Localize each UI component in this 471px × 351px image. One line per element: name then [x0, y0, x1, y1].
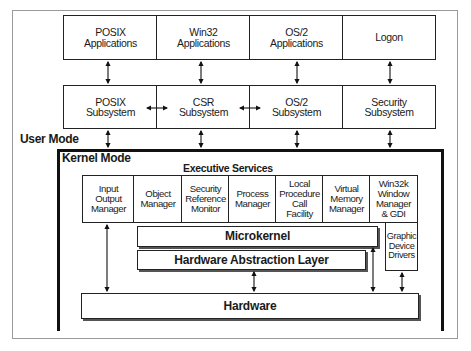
connector-arrows: [0, 0, 471, 351]
